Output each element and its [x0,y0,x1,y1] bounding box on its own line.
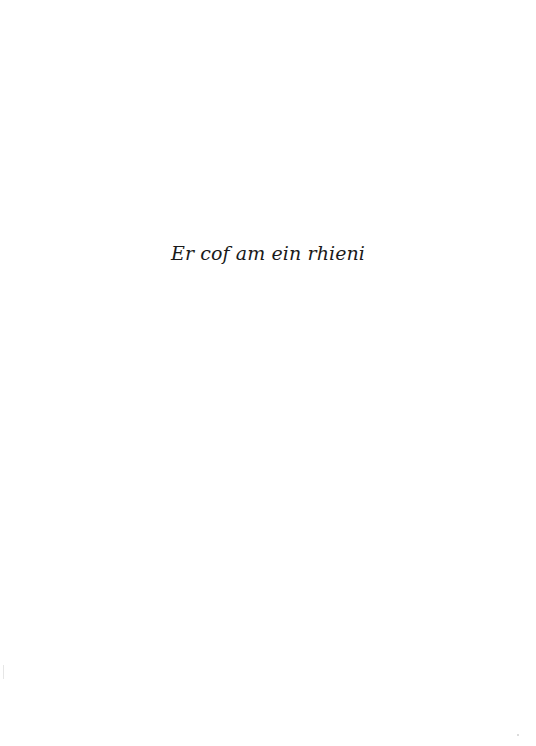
scan-speck [517,734,519,736]
document-page: Er cof am ein rhieni [0,0,536,746]
scan-edge-mark [3,665,4,679]
dedication-text: Er cof am ein rhieni [0,240,536,266]
